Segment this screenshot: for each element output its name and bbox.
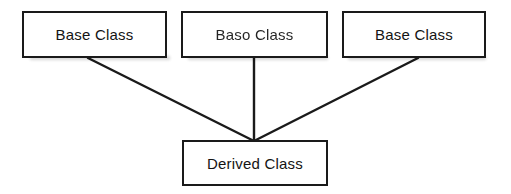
node-base-class-3[interactable]: Base Class — [342, 11, 486, 58]
node-base-class-1[interactable]: Base Class — [22, 11, 167, 58]
node-base-class-2[interactable]: Baso Class — [181, 11, 328, 58]
node-label-base-class-2: Baso Class — [216, 27, 294, 42]
node-label-base-class-1: Base Class — [56, 27, 134, 42]
inheritance-diagram: Base Class Baso Class Base Class Derived… — [0, 0, 511, 194]
node-label-base-class-3: Base Class — [375, 27, 453, 42]
edge-base1-derived — [88, 58, 254, 141]
node-derived-class[interactable]: Derived Class — [182, 140, 328, 186]
node-label-derived-class: Derived Class — [207, 156, 303, 171]
edge-base3-derived — [254, 58, 418, 141]
